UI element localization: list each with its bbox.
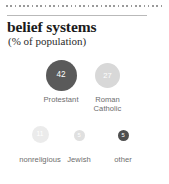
bubble-value-jewish: 5 xyxy=(77,133,80,139)
bubble-group-jewish[interactable]: 5Jewish xyxy=(58,130,100,165)
bubble-chart: 42Protestant27Roman Catholic11nonreligio… xyxy=(0,0,169,184)
bubble-circle-other[interactable]: 5 xyxy=(118,130,129,141)
bubble-label-other: other xyxy=(104,156,142,165)
bubble-label-roman-catholic: Roman Catholic xyxy=(87,96,128,113)
bubble-circle-roman-catholic[interactable]: 27 xyxy=(95,63,120,88)
bubble-value-protestant: 42 xyxy=(56,71,65,79)
belief-systems-infographic: belief systems (% of population) 42Prote… xyxy=(0,0,169,184)
bubble-circle-jewish[interactable]: 5 xyxy=(74,130,85,141)
bubble-group-protestant[interactable]: 42Protestant xyxy=(30,60,92,105)
bubble-value-nonreligious: 11 xyxy=(37,131,44,138)
bubble-label-protestant: Protestant xyxy=(30,96,92,105)
bubble-value-other: 5 xyxy=(121,133,124,139)
bubble-label-jewish: Jewish xyxy=(58,156,100,165)
bubble-circle-protestant[interactable]: 42 xyxy=(46,60,77,91)
bubble-circle-nonreligious[interactable]: 11 xyxy=(32,126,49,143)
bubble-group-roman-catholic[interactable]: 27Roman Catholic xyxy=(87,63,128,113)
bubble-value-roman-catholic: 27 xyxy=(103,72,111,80)
bubble-group-other[interactable]: 5other xyxy=(104,130,142,165)
